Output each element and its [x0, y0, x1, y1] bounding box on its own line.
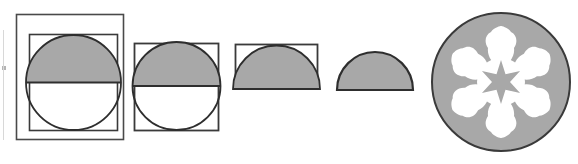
- diagram-canvas: Geometric figure sequence: inscribed cir…: [0, 0, 578, 164]
- figure-3-group: [233, 45, 320, 90]
- figure-4-group: [337, 52, 413, 90]
- scan-edge-line: [3, 30, 4, 140]
- figure-4-semicircle-shaded: [337, 52, 413, 90]
- figure-2-group: [133, 42, 221, 131]
- figure-5-group: [432, 13, 570, 151]
- figure-1-group: [17, 15, 124, 140]
- figure-1: [0, 0, 578, 164]
